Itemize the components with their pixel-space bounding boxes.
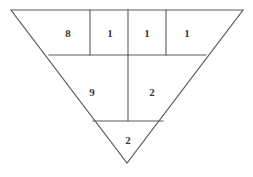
middle-row-cell-label-1: 9 (89, 87, 95, 98)
vertical-divider-group (90, 10, 166, 121)
middle-row-cell-label-2: 2 (149, 87, 155, 98)
top-row-cell-label-1: 8 (65, 28, 71, 39)
bottom-row-cell-label-1: 2 (125, 135, 131, 146)
figure-canvas: 8111922 (0, 0, 253, 177)
top-row-cell-label-3: 1 (144, 28, 150, 39)
triangle-diagram-svg (0, 0, 253, 177)
top-row-cell-label-2: 1 (107, 28, 113, 39)
top-row-cell-label-4: 1 (184, 28, 190, 39)
